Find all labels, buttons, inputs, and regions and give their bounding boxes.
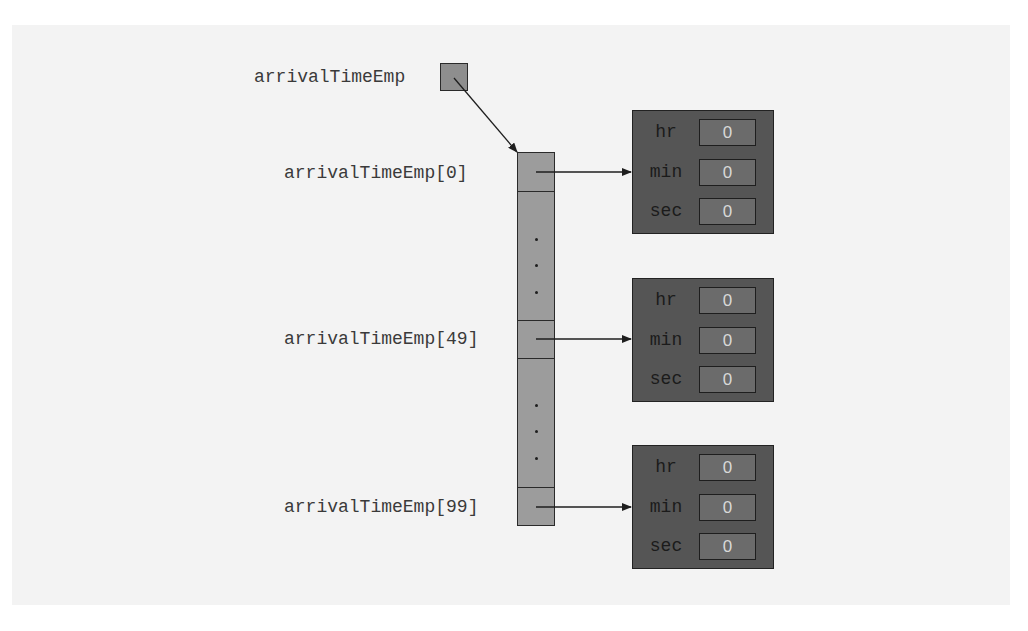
pointer-arrows bbox=[0, 0, 1028, 631]
reference-arrow bbox=[454, 78, 517, 152]
